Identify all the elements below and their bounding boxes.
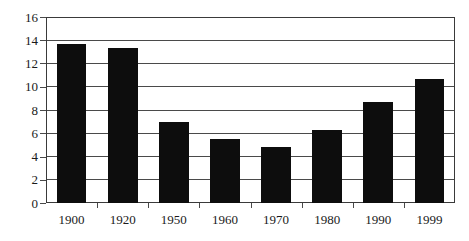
y-axis-tick-label: 8: [6, 104, 38, 117]
x-axis-tick-mark: [353, 203, 354, 208]
x-axis-tick-label: 1980: [302, 210, 353, 232]
x-axis-tick-label: 1970: [251, 210, 302, 232]
bar-slot: [302, 17, 353, 203]
y-axis-tick-mark: [40, 203, 46, 204]
bar-1980: [312, 130, 342, 203]
bar-slot: [46, 17, 97, 203]
bar-1970: [261, 147, 291, 203]
bar-chart: 16 14 12 10 8 6 4 2 0: [0, 0, 469, 241]
x-axis-tick-mark: [97, 203, 98, 208]
x-axis-tick-mark: [148, 203, 149, 208]
x-axis-tick-label: 1960: [199, 210, 250, 232]
bar-slot: [199, 17, 250, 203]
bar-1900: [57, 44, 87, 203]
bar-slot: [251, 17, 302, 203]
bar-slot: [148, 17, 199, 203]
y-axis-labels: 16 14 12 10 8 6 4 2 0: [0, 0, 38, 241]
x-axis-tick-mark: [199, 203, 200, 208]
y-axis-tick-label: 12: [6, 57, 38, 70]
y-axis-tick-label: 14: [6, 34, 38, 47]
x-axis-tick-label: 1950: [148, 210, 199, 232]
bar-1990: [363, 102, 393, 203]
x-axis-tick-label: 1990: [353, 210, 404, 232]
bar-1950: [159, 122, 189, 203]
bar-1920: [108, 48, 138, 203]
x-axis-tick-label: 1999: [404, 210, 455, 232]
x-axis-tick-label: 1920: [97, 210, 148, 232]
y-axis-tick-label: 16: [6, 11, 38, 24]
y-axis-tick-label: 10: [6, 80, 38, 93]
bar-1960: [210, 139, 240, 203]
x-axis-tick-mark: [251, 203, 252, 208]
y-axis-tick-label: 2: [6, 173, 38, 186]
y-axis-tick-label: 6: [6, 127, 38, 140]
x-axis-tick-mark: [302, 203, 303, 208]
bar-slot: [353, 17, 404, 203]
bars-layer: [46, 17, 455, 203]
bar-slot: [97, 17, 148, 203]
y-axis-tick-label: 4: [6, 150, 38, 163]
x-axis-tick-label: 1900: [46, 210, 97, 232]
bar-1999: [415, 79, 445, 203]
y-axis-tick-label: 0: [6, 197, 38, 210]
x-axis-tick-mark: [404, 203, 405, 208]
x-axis-labels: 1900 1920 1950 1960 1970 1980 1990 1999: [46, 210, 455, 232]
bar-slot: [404, 17, 455, 203]
